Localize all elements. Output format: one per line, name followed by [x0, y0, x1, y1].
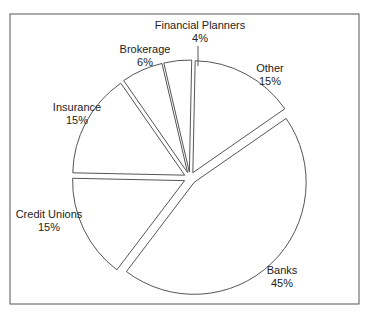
- label-credit-unions-name: Credit Unions: [16, 208, 83, 220]
- label-insurance-name: Insurance: [53, 101, 101, 113]
- label-other-name: Other: [256, 62, 284, 74]
- label-insurance-pct: 15%: [66, 114, 88, 126]
- label-credit-unions-pct: 15%: [38, 221, 60, 233]
- label-financial-planners-pct: 4%: [192, 32, 208, 44]
- label-financial-planners-name: Financial Planners: [155, 19, 246, 31]
- label-brokerage-pct: 6%: [137, 56, 153, 68]
- pie-chart: Financial Planners 4% Other 15% Banks 45…: [0, 0, 376, 311]
- label-brokerage-name: Brokerage: [120, 43, 171, 55]
- label-banks-pct: 45%: [271, 277, 293, 289]
- label-banks-name: Banks: [267, 264, 298, 276]
- label-other-pct: 15%: [259, 75, 281, 87]
